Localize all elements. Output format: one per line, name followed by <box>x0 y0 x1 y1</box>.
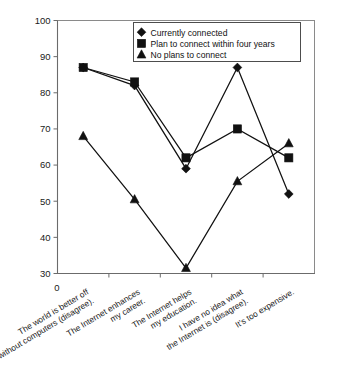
legend-label: Plan to connect within four years <box>151 39 275 49</box>
data-point-diamond <box>233 63 242 72</box>
data-point-diamond <box>182 164 191 173</box>
data-point-triangle <box>284 139 293 147</box>
y-tick-label: 70 <box>40 123 51 134</box>
chart-container: 30405060708090100 0 The world is better … <box>0 0 337 369</box>
origin-tick-label: 0 <box>54 282 59 293</box>
x-axis-category-labels: The world is better offwithout computers… <box>0 286 296 361</box>
line-chart: 30405060708090100 0 The world is better … <box>0 0 337 369</box>
data-point-square <box>79 63 87 71</box>
legend-marker-square <box>137 39 145 47</box>
y-tick-label: 100 <box>35 15 51 26</box>
y-tick-label: 80 <box>40 87 51 98</box>
y-tick-label: 40 <box>40 232 51 243</box>
y-tick-label: 60 <box>40 159 51 170</box>
legend-label: No plans to connect <box>151 50 228 60</box>
legend-label: Currently connected <box>151 28 228 38</box>
y-tick-label: 30 <box>40 268 51 279</box>
data-point-square <box>233 125 241 133</box>
x-axis-ticks <box>109 274 263 278</box>
data-point-square <box>285 154 293 162</box>
legend: Currently connectedPlan to connect withi… <box>134 23 301 62</box>
series-line-2 <box>83 67 289 157</box>
data-point-square <box>131 78 139 86</box>
data-point-square <box>182 154 190 162</box>
data-point-diamond <box>284 190 293 199</box>
series-markers <box>79 63 293 271</box>
data-point-triangle <box>233 177 242 185</box>
y-tick-label: 50 <box>40 196 51 207</box>
data-point-triangle <box>79 131 88 139</box>
y-tick-label: 90 <box>40 51 51 62</box>
y-axis-ticks: 30405060708090100 <box>35 15 58 279</box>
